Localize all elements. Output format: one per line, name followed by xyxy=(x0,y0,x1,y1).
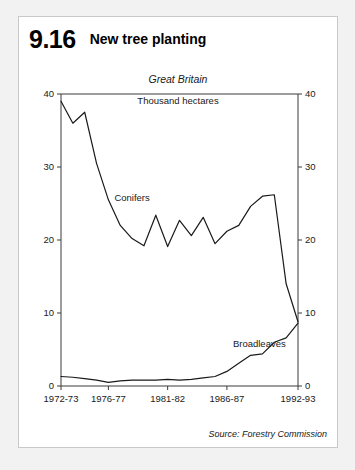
series-line-conifers xyxy=(61,101,298,321)
x-tick-label: 1976-77 xyxy=(91,393,126,404)
y-tick-label-left: 0 xyxy=(49,380,54,391)
chart-ticks: 0010102020303040401972-731976-771981-821… xyxy=(43,88,315,404)
x-tick-label: 1992-93 xyxy=(281,393,316,404)
y-tick-label-right: 0 xyxy=(305,380,310,391)
y-tick-label-left: 30 xyxy=(43,161,54,172)
y-tick-label-left: 20 xyxy=(43,234,54,245)
series-line-broadleaves xyxy=(61,323,298,382)
x-tick-label: 1981-82 xyxy=(150,393,185,404)
line-chart: 0010102020303040401972-731976-771981-821… xyxy=(19,17,339,449)
figure-frame: 9.16 New tree planting Great Britain Tho… xyxy=(18,16,338,448)
y-tick-label-right: 40 xyxy=(305,88,316,99)
y-tick-label-left: 40 xyxy=(43,88,54,99)
series-label-broadleaves: Broadleaves xyxy=(233,338,286,349)
x-tick-label: 1972-73 xyxy=(44,393,79,404)
y-tick-label-right: 20 xyxy=(305,234,316,245)
series-label-conifers: Conifers xyxy=(114,192,150,203)
y-tick-label-right: 10 xyxy=(305,307,316,318)
chart-series-labels: ConifersBroadleaves xyxy=(114,192,286,348)
x-tick-label: 1986-87 xyxy=(209,393,244,404)
y-tick-label-right: 30 xyxy=(305,161,316,172)
source-note: Source: Forestry Commission xyxy=(208,429,327,439)
y-tick-label-left: 10 xyxy=(43,307,54,318)
